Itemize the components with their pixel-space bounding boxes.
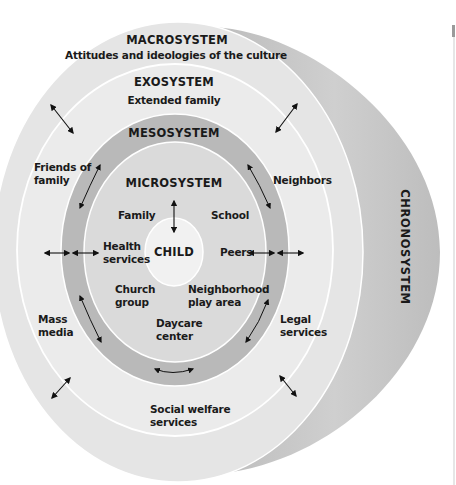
micro-item-health-services: Health services [103,240,150,266]
friends-line1: Friends of [34,161,91,174]
macrosystem-description: Attitudes and ideologies of the culture [65,49,287,62]
page-edge-marker [452,25,455,37]
social-line2: services [150,416,231,429]
health-line2: services [103,253,150,266]
micro-item-school: School [211,209,249,222]
church-line1: Church [115,283,155,296]
microsystem-title: MICROSYSTEM [125,177,222,190]
mass-line2: media [38,326,73,339]
micro-item-peers: Peers [220,246,252,259]
macrosystem-title: MACROSYSTEM [126,34,228,47]
friends-line2: family [34,174,91,187]
chronosystem-title: CHRONOSYSTEM [398,189,412,304]
neighborhood-line2: play area [188,296,269,309]
micro-item-daycare-center: Daycare center [156,317,203,343]
exo-item-mass-media: Mass media [38,313,73,339]
social-line1: Social welfare [150,403,231,416]
legal-line1: Legal [280,313,327,326]
page-edge-divider [453,25,455,485]
mass-line1: Mass [38,313,73,326]
church-line2: group [115,296,155,309]
micro-item-neighborhood-play-area: Neighborhood play area [188,283,269,309]
mesosystem-title: MESOSYSTEM [128,127,219,140]
neighborhood-line1: Neighborhood [188,283,269,296]
child-label: CHILD [154,246,194,259]
exo-item-neighbors: Neighbors [273,174,332,187]
exo-item-extended-family: Extended family [127,94,220,107]
micro-item-family: Family [118,209,155,222]
exo-item-social-welfare-services: Social welfare services [150,403,231,429]
legal-line2: services [280,326,327,339]
daycare-line1: Daycare [156,317,203,330]
exo-item-legal-services: Legal services [280,313,327,339]
exosystem-title: EXOSYSTEM [134,76,214,89]
micro-item-church-group: Church group [115,283,155,309]
exo-item-friends-of-family: Friends of family [34,161,91,187]
daycare-line2: center [156,330,203,343]
health-line1: Health [103,240,150,253]
